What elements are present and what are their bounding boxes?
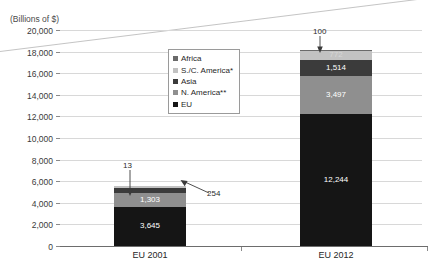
plot-area: 02,0004,0006,0008,00010,00012,00014,0001…: [60, 31, 422, 247]
x-label-eu-2001: EU 2001: [75, 250, 225, 260]
bar-segment-s-c-america: 772: [300, 51, 372, 59]
bar-segment-value: 772: [329, 51, 342, 59]
bar-segment-eu: 3,645: [114, 207, 186, 246]
bar-segment-value: 1,303: [140, 196, 160, 204]
y-tick-label-0: 0: [48, 242, 53, 252]
legend-item-n-america[interactable]: N. America**: [173, 87, 233, 98]
legend-item-eu[interactable]: EU: [173, 99, 233, 110]
legend-item-africa[interactable]: Africa: [173, 53, 233, 64]
legend-item-s-c-america[interactable]: S./C. America*: [173, 64, 233, 75]
y-tick-mark-10000: [56, 138, 60, 139]
bar-segment-asia: 1,514: [300, 60, 372, 76]
bar-segment-value: 12,244: [324, 176, 348, 184]
annotation-sca-2001-text: 254: [207, 189, 220, 198]
y-tick-mark-18000: [56, 52, 60, 53]
legend-item-label: Africa: [181, 54, 201, 63]
y-tick-label-20000: 20,000: [27, 26, 53, 36]
bar-segment-eu: 12,244: [300, 114, 372, 246]
bar-segment-value: 3,645: [140, 222, 160, 230]
y-tick-mark-2000: [56, 224, 60, 225]
x-axis-tick-separator: [241, 247, 242, 251]
bar-segment-value: 3,497: [326, 91, 346, 99]
bar-eu-2012: 1007721,5143,49712,244: [300, 50, 372, 246]
annotation-africa-2012-text: 100: [313, 27, 326, 36]
y-tick-label-4000: 4,000: [32, 199, 53, 209]
legend-swatch-icon: [173, 102, 178, 107]
bar-eu-2001: 132543821,3033,645: [114, 186, 186, 246]
legend-swatch-icon: [173, 79, 178, 84]
bar-segment-n-america: 1,303: [114, 193, 186, 207]
y-tick-label-8000: 8,000: [32, 156, 53, 166]
bar-segment-value: 1,514: [326, 64, 346, 72]
x-axis-line: [60, 246, 428, 247]
x-label-eu-2012: EU 2012: [261, 250, 411, 260]
y-tick-label-6000: 6,000: [32, 177, 53, 187]
bar-segment-n-america: 3,497: [300, 76, 372, 114]
annotation-africa-2001-text: 13: [123, 161, 132, 170]
chart-legend: AfricaS./C. America*AsiaN. America**EU: [168, 49, 240, 114]
y-tick-mark-14000: [56, 95, 60, 96]
y-tick-label-14000: 14,000: [27, 91, 53, 101]
y-tick-mark-4000: [56, 203, 60, 204]
gridline-20000: [60, 30, 422, 31]
legend-item-label: N. America**: [181, 88, 226, 97]
y-tick-label-2000: 2,000: [32, 220, 53, 230]
y-tick-mark-8000: [56, 160, 60, 161]
stacked-bar-chart: (Billions of $) 02,0004,0006,0008,00010,…: [0, 0, 429, 275]
legend-item-label: EU: [181, 100, 192, 109]
y-tick-label-18000: 18,000: [27, 48, 53, 58]
y-tick-label-16000: 16,000: [27, 69, 53, 79]
y-tick-mark-20000: [56, 30, 60, 31]
y-axis-unit-label: (Billions of $): [10, 14, 59, 24]
legend-item-asia[interactable]: Asia: [173, 76, 233, 87]
y-tick-label-10000: 10,000: [27, 134, 53, 144]
cropped-chart-title: [10, 0, 340, 4]
y-tick-mark-12000: [56, 116, 60, 117]
legend-swatch-icon: [173, 56, 178, 61]
legend-item-label: S./C. America*: [181, 66, 233, 75]
legend-swatch-icon: [173, 90, 178, 95]
y-tick-mark-16000: [56, 73, 60, 74]
legend-swatch-icon: [173, 68, 178, 73]
y-tick-mark-6000: [56, 181, 60, 182]
legend-item-label: Asia: [181, 77, 197, 86]
y-tick-label-12000: 12,000: [27, 112, 53, 122]
x-axis-tick-end: [427, 247, 428, 251]
